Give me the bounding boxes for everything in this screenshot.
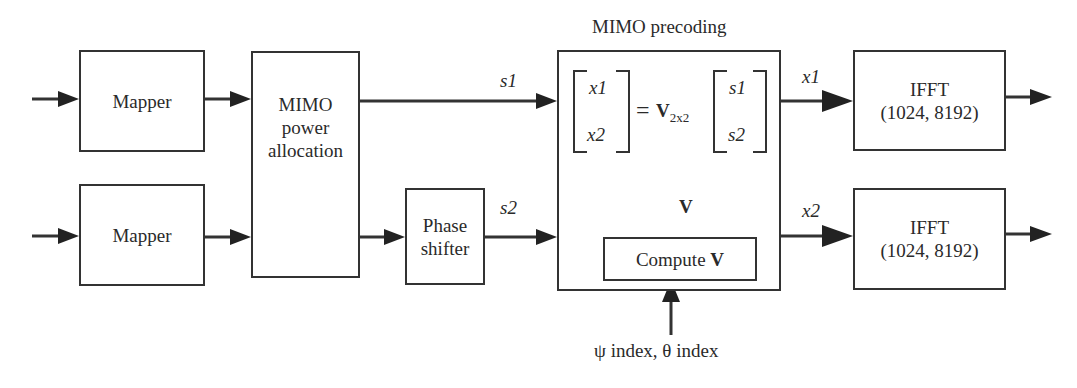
phase-shifter-block: Phase shifter xyxy=(405,188,485,285)
lhs-x1: x1 xyxy=(589,77,607,99)
phase-shifter-line-2: shifter xyxy=(421,237,470,260)
rhs-s2: s2 xyxy=(728,124,745,146)
v-arrow-label: V xyxy=(679,196,693,218)
power-allocation-line-3: allocation xyxy=(268,139,343,162)
lhs-x2: x2 xyxy=(587,124,605,146)
matrix-v-subscript: 2x2 xyxy=(670,110,690,125)
ifft-block-2: IFFT (1024, 8192) xyxy=(853,188,1006,290)
mapper-block-1: Mapper xyxy=(79,50,205,152)
ifft-1-line-2: (1024, 8192) xyxy=(880,101,978,124)
equals-sign: = xyxy=(636,97,650,124)
phase-shifter-line-1: Phase xyxy=(423,214,467,237)
rhs-s1: s1 xyxy=(729,77,746,99)
lhs-bracket-right xyxy=(616,70,630,153)
matrix-v-symbol: V xyxy=(656,100,670,121)
mapper-1-label: Mapper xyxy=(112,90,171,113)
matrix-v: V2x2 xyxy=(656,100,689,126)
power-allocation-line-1: MIMO xyxy=(279,93,333,116)
mapper-block-2: Mapper xyxy=(79,184,205,286)
compute-v-symbol: V xyxy=(710,248,724,271)
rhs-bracket-right xyxy=(753,70,767,153)
rhs-bracket-left xyxy=(713,70,727,153)
ifft-block-1: IFFT (1024, 8192) xyxy=(853,50,1006,151)
ifft-2-line-1: IFFT xyxy=(910,216,949,239)
signal-x1-label: x1 xyxy=(802,66,820,88)
signal-s2-label: s2 xyxy=(500,197,517,219)
compute-v-block: Compute V xyxy=(603,237,757,281)
power-allocation-block: MIMO power allocation xyxy=(251,51,360,278)
precoding-title: MIMO precoding xyxy=(592,16,727,38)
compute-label: Compute xyxy=(636,248,710,271)
mapper-2-label: Mapper xyxy=(112,224,171,247)
lhs-bracket-left xyxy=(573,70,587,153)
ifft-2-line-2: (1024, 8192) xyxy=(880,239,978,262)
power-allocation-line-2: power xyxy=(282,116,329,139)
ifft-1-line-1: IFFT xyxy=(910,78,949,101)
control-input-label: ψ index, θ index xyxy=(594,340,718,362)
signal-x2-label: x2 xyxy=(802,200,820,222)
signal-s1-label: s1 xyxy=(500,70,517,92)
